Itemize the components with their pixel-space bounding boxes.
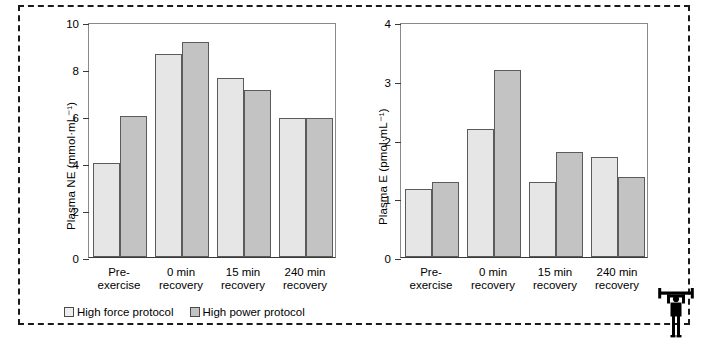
bars-layer-plasma-e [401, 24, 647, 257]
y-tick-plasma-ne-6: 6 [83, 118, 89, 119]
y-tick-label-plasma-e-2: 2 [385, 137, 391, 149]
weightlifter-icon [655, 282, 697, 340]
x-category-label: 15 minrecovery [524, 266, 586, 292]
x-category-label: 0 minrecovery [462, 266, 524, 292]
bar-group [93, 24, 147, 257]
bar [556, 152, 583, 257]
bar-group [155, 24, 209, 257]
y-tick-label-plasma-ne-8: 8 [73, 66, 79, 78]
legend-swatch-high-force [64, 307, 74, 317]
x-category-line2: recovery [586, 279, 648, 292]
x-category-line2: exercise [400, 279, 462, 292]
legend-label-high-power: High power protocol [203, 306, 305, 318]
bar-group [279, 24, 333, 257]
y-tick-label-plasma-e-3: 3 [385, 78, 391, 90]
y-tick-label-plasma-e-1: 1 [385, 196, 391, 208]
y-tick-plasma-ne-4: 4 [83, 165, 89, 166]
x-category-line2: recovery [212, 279, 274, 292]
y-tick-plasma-e-4: 4 [395, 24, 401, 25]
bar [467, 129, 494, 257]
y-tick-plasma-e-1: 1 [395, 200, 401, 201]
y-tick-plasma-e-0: 0 [395, 259, 401, 260]
x-category-line1: Pre- [108, 266, 130, 278]
bar [182, 42, 209, 257]
x-category-label: 0 minrecovery [150, 266, 212, 292]
y-tick-label-plasma-ne-2: 2 [73, 207, 79, 219]
bar-group [217, 24, 271, 257]
bar [618, 177, 645, 257]
legend-item-high-power: High power protocol [190, 306, 305, 318]
y-tick-label-plasma-ne-6: 6 [73, 113, 79, 125]
chart-legend: High force protocol High power protocol [64, 306, 305, 318]
bar-group [467, 24, 521, 257]
y-tick-label-plasma-ne-10: 10 [66, 19, 79, 31]
y-tick-label-plasma-e-0: 0 [385, 254, 391, 266]
y-tick-plasma-e-3: 3 [395, 83, 401, 84]
bar [155, 54, 182, 257]
bar-group [591, 24, 645, 257]
chart-panel-plasma-e: Plasma E (pmol·mL⁻¹) 01234 Pre-exercise0… [348, 0, 678, 350]
y-axis-label-plasma-e: Plasma E (pmol·mL⁻¹) [376, 108, 390, 225]
bar [93, 163, 120, 257]
x-category-label: 240 minrecovery [274, 266, 336, 292]
x-category-line1: 240 min [597, 266, 638, 278]
bar-group [405, 24, 459, 257]
x-category-line2: recovery [462, 279, 524, 292]
y-tick-plasma-e-2: 2 [395, 142, 401, 143]
bar [306, 118, 333, 257]
y-tick-plasma-ne-10: 10 [83, 24, 89, 25]
legend-swatch-high-power [190, 307, 200, 317]
y-tick-label-plasma-ne-0: 0 [73, 254, 79, 266]
legend-label-high-force: High force protocol [77, 306, 174, 318]
bar [120, 116, 147, 257]
bars-layer-plasma-ne [89, 24, 335, 257]
bar [217, 78, 244, 257]
x-category-label: Pre-exercise [88, 266, 150, 292]
bar [591, 157, 618, 257]
y-tick-plasma-ne-2: 2 [83, 212, 89, 213]
x-category-line1: 15 min [538, 266, 573, 278]
x-category-line1: 15 min [226, 266, 261, 278]
legend-item-high-force: High force protocol [64, 306, 174, 318]
x-category-line1: Pre- [420, 266, 442, 278]
plot-area-plasma-e: 01234 [400, 23, 648, 258]
y-tick-plasma-ne-0: 0 [83, 259, 89, 260]
x-category-label: 15 minrecovery [212, 266, 274, 292]
x-category-line2: exercise [88, 279, 150, 292]
y-tick-label-plasma-ne-4: 4 [73, 160, 79, 172]
x-category-line1: 240 min [285, 266, 326, 278]
bar [529, 182, 556, 257]
x-category-line1: 0 min [167, 266, 195, 278]
x-category-label: Pre-exercise [400, 266, 462, 292]
y-tick-label-plasma-e-4: 4 [385, 19, 391, 31]
chart-panel-plasma-ne: Plasma NE (mmol·mL⁻¹) 0246810 Pre-exerci… [30, 0, 360, 350]
y-tick-plasma-ne-8: 8 [83, 71, 89, 72]
x-category-line2: recovery [524, 279, 586, 292]
bar [279, 118, 306, 257]
bar [244, 90, 271, 257]
plot-area-plasma-ne: 0246810 [88, 23, 336, 258]
figure-root: Plasma NE (mmol·mL⁻¹) 0246810 Pre-exerci… [0, 0, 705, 350]
bar-group [529, 24, 583, 257]
x-category-line1: 0 min [479, 266, 507, 278]
x-category-line2: recovery [150, 279, 212, 292]
bar [432, 182, 459, 257]
bar [405, 189, 432, 257]
x-category-line2: recovery [274, 279, 336, 292]
bar [494, 70, 521, 257]
x-category-label: 240 minrecovery [586, 266, 648, 292]
